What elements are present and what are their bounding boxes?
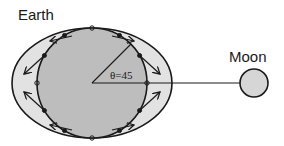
moon-body	[240, 69, 268, 97]
earth-label: Earth	[18, 6, 54, 23]
angle-label: θ=45	[110, 69, 132, 81]
tidal-diagram: Earth Moon θ=45	[0, 0, 284, 146]
moon-label: Moon	[229, 48, 267, 65]
